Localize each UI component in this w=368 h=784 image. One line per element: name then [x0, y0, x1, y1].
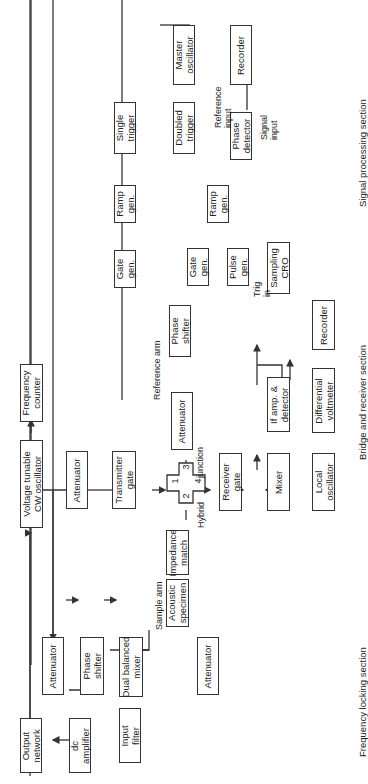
attenuator-fl1-block: Attenuator — [42, 637, 64, 695]
trig-in-label: Trig in — [252, 282, 272, 297]
phase-shifter-ref-block: Phase shifter — [169, 305, 191, 357]
local-oscillator-block: Local oscillator — [312, 453, 335, 511]
sample-arm-label: Sample arm — [154, 581, 164, 630]
mixer-block: Mixer — [267, 453, 290, 511]
block-label: Gate gen. — [114, 259, 136, 280]
differential-voltmeter-block: Differential voltmeter — [312, 368, 335, 433]
if-amp-block: If amp. & detector — [267, 377, 290, 432]
single-trigger-block: Single trigger — [114, 102, 136, 154]
block-label: Single trigger — [114, 115, 136, 142]
recorder-signal-block: Recorder — [230, 25, 252, 85]
signal-processing-section-label: Signal processing section — [357, 99, 368, 207]
block-label: If amp. & detector — [268, 385, 290, 423]
block-label: Recorder — [236, 35, 247, 74]
signal-input-label: Signal input — [259, 115, 279, 140]
receiver-gate-block: Receiver gate — [219, 453, 242, 511]
block-label: Attenuator — [48, 644, 59, 688]
block-label: Attenuator — [203, 644, 214, 688]
phase-shifter-fl-block: Phase shifter — [80, 637, 104, 695]
block-label: Phase detector — [230, 119, 252, 153]
ramp-gen-2-block: Ramp gen. — [207, 185, 229, 223]
impedance-match-block: Impedance match — [166, 530, 189, 575]
block-label: Output network — [20, 729, 42, 762]
block-label: Gate gen. — [187, 257, 209, 278]
reference-input-label: Reference input — [213, 86, 233, 128]
attenuator-ref-block: Attenuator — [171, 392, 193, 450]
block-label: dc amplifier — [69, 728, 91, 764]
transmitter-gate-block: Transmitter gate — [112, 451, 136, 509]
block-label: Acoustic specimen — [167, 583, 189, 624]
gate-gen-2-block: Gate gen. — [187, 248, 209, 286]
block-label: Frequency counter — [21, 371, 43, 416]
block-label: Doubled trigger — [173, 110, 195, 145]
block-label: Attenuator — [72, 458, 83, 502]
pulse-gen-block: Pulse gen. — [227, 248, 249, 286]
block-label: Ramp gen. — [207, 191, 229, 216]
block-label: Impedance match — [167, 529, 189, 576]
block-label: Attenuator — [177, 399, 188, 443]
block-label: Local oscillator — [313, 463, 335, 501]
phase-detector-block: Phase detector — [230, 112, 252, 160]
ramp-gen-1-block: Ramp gen. — [114, 185, 136, 223]
reference-arm-label: Reference arm — [152, 340, 162, 400]
block-label: Dual balanced mixer — [120, 637, 142, 698]
block-label: Mixer — [273, 470, 284, 493]
block-label: Phase shifter — [81, 653, 103, 680]
block-label: Phase shifter — [169, 318, 191, 345]
master-oscillator-block: Master oscillator — [173, 25, 195, 85]
frequency-locking-section-label: Frequency locking section — [357, 647, 368, 757]
block-label: Master oscillator — [173, 36, 195, 74]
block-label: Voltage tunable CW oscillator — [21, 451, 43, 517]
block-label: Differential voltmeter — [313, 378, 335, 423]
block-label: Receiver gate — [220, 463, 242, 501]
attenuator-main-block: Attenuator — [66, 451, 88, 509]
port-2: 2 — [181, 493, 191, 498]
port-4: 4 — [193, 478, 203, 483]
frequency-counter-block: Frequency counter — [20, 364, 43, 422]
input-filter-block: Input filter — [119, 708, 141, 763]
gate-gen-1-block: Gate gen. — [114, 250, 136, 288]
dc-amplifier-block: dc amplifier — [69, 718, 91, 773]
output-network-block: Output network — [20, 718, 42, 773]
attenuator-fl2-block: Attenuator — [197, 637, 219, 695]
block-label: Pulse gen. — [227, 255, 249, 279]
bridge-receiver-section-label: Bridge and receiver section — [357, 345, 368, 460]
hybrid-label: Hybrid — [196, 502, 206, 528]
vco-block: Voltage tunable CW oscillator — [20, 440, 43, 528]
junction-label: junction — [195, 447, 205, 478]
recorder-bridge-block: Recorder — [312, 300, 335, 350]
doubled-trigger-block: Doubled trigger — [173, 102, 195, 154]
block-label: Input filter — [119, 725, 141, 746]
block-label: Transmitter gate — [113, 456, 135, 504]
port-3: 3 — [181, 464, 191, 469]
block-label: Recorder — [318, 305, 329, 344]
block-label: Ramp gen. — [114, 191, 136, 216]
dual-balanced-mixer-block: Dual balanced mixer — [119, 637, 143, 697]
port-1: 1 — [170, 478, 180, 483]
acoustic-specimen-block: Acoustic specimen — [166, 579, 189, 627]
